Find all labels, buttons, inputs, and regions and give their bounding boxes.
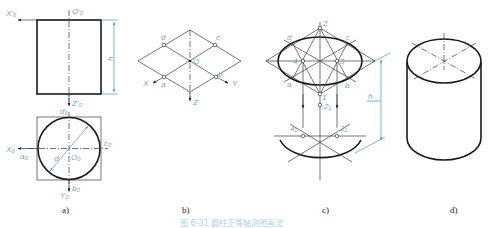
figure-caption: 图 6-31 圆柱正等轴测图画法	[180, 218, 283, 228]
label-o0-prime: O'₀	[72, 7, 84, 16]
label-3: 3	[340, 57, 345, 66]
label-y-b: Y	[232, 79, 238, 88]
dim-ext-top-c	[375, 53, 390, 61]
label-1: 1	[322, 93, 326, 102]
label-d: d	[54, 154, 59, 163]
label-b0: b₀	[72, 184, 80, 193]
panel-b-label: b)	[182, 205, 190, 215]
label-3-1: 3₁	[340, 124, 347, 133]
panel-a-label: a)	[62, 205, 69, 215]
cylinder-isometric-drawing: X'₀ O'₀ Z'₀ h X₀ a₀ c₀ d₀ b₀ O₀ d Y₀	[0, 0, 489, 228]
label-d0: d₀	[60, 107, 68, 116]
panel-a: X'₀ O'₀ Z'₀ h X₀ a₀ c₀ d₀ b₀ O₀ d Y₀	[5, 7, 118, 215]
point-c	[213, 43, 217, 47]
label-d-c: d	[287, 33, 292, 42]
label-c-c: c	[346, 33, 350, 42]
front-view: X'₀ O'₀ Z'₀ h	[5, 7, 118, 108]
point-4-1	[301, 134, 305, 138]
point-o	[189, 60, 192, 63]
label-a-c: a	[287, 80, 292, 89]
label-a-b: a	[161, 80, 166, 89]
label-2: 2	[322, 19, 328, 28]
point-a	[162, 75, 166, 79]
label-x0: X₀	[5, 145, 15, 154]
label-4: 4	[293, 57, 298, 66]
label-y0: Y₀	[60, 191, 69, 200]
point-d	[162, 43, 166, 47]
label-o0: O₀	[71, 153, 81, 162]
cylinder-bottom-arc	[407, 138, 481, 160]
panel-d-label: d)	[450, 205, 458, 215]
panel-c-label: c)	[322, 205, 329, 215]
label-b-c: b	[345, 81, 350, 90]
label-h-c: h	[368, 92, 373, 101]
label-x0-prime: X'₀	[5, 9, 17, 18]
panel-c: 2 1 4 3 d c a b 2₁ 4₁ 3₁ h c)	[266, 19, 390, 215]
label-c-b: c	[216, 33, 220, 42]
point-3-1	[335, 134, 339, 138]
point-2	[318, 26, 322, 30]
label-h: h	[106, 56, 115, 61]
cylinder-axis-2	[414, 43, 476, 79]
label-4-1: 4₁	[290, 124, 297, 133]
point-3	[335, 59, 339, 63]
dim-ext-bottom-c	[355, 137, 385, 153]
label-z-b: Z	[192, 98, 199, 107]
label-c0: c₀	[104, 139, 112, 148]
label-o-b: O	[193, 57, 199, 66]
label-z0-prime: Z'₀	[71, 99, 82, 108]
panel-b: d c a b O X Y Z b)	[138, 30, 241, 215]
label-b-b: b	[218, 70, 223, 79]
point-4	[301, 59, 305, 63]
label-a0: a₀	[20, 152, 28, 161]
label-d-b: d	[161, 33, 166, 42]
point-2-1	[318, 103, 322, 107]
panel-d: d)	[407, 33, 481, 215]
label-2-1: 2₁	[323, 102, 331, 111]
label-x-b: X	[142, 79, 149, 88]
top-view: X₀ a₀ c₀ d₀ b₀ O₀ d Y₀	[5, 107, 112, 200]
